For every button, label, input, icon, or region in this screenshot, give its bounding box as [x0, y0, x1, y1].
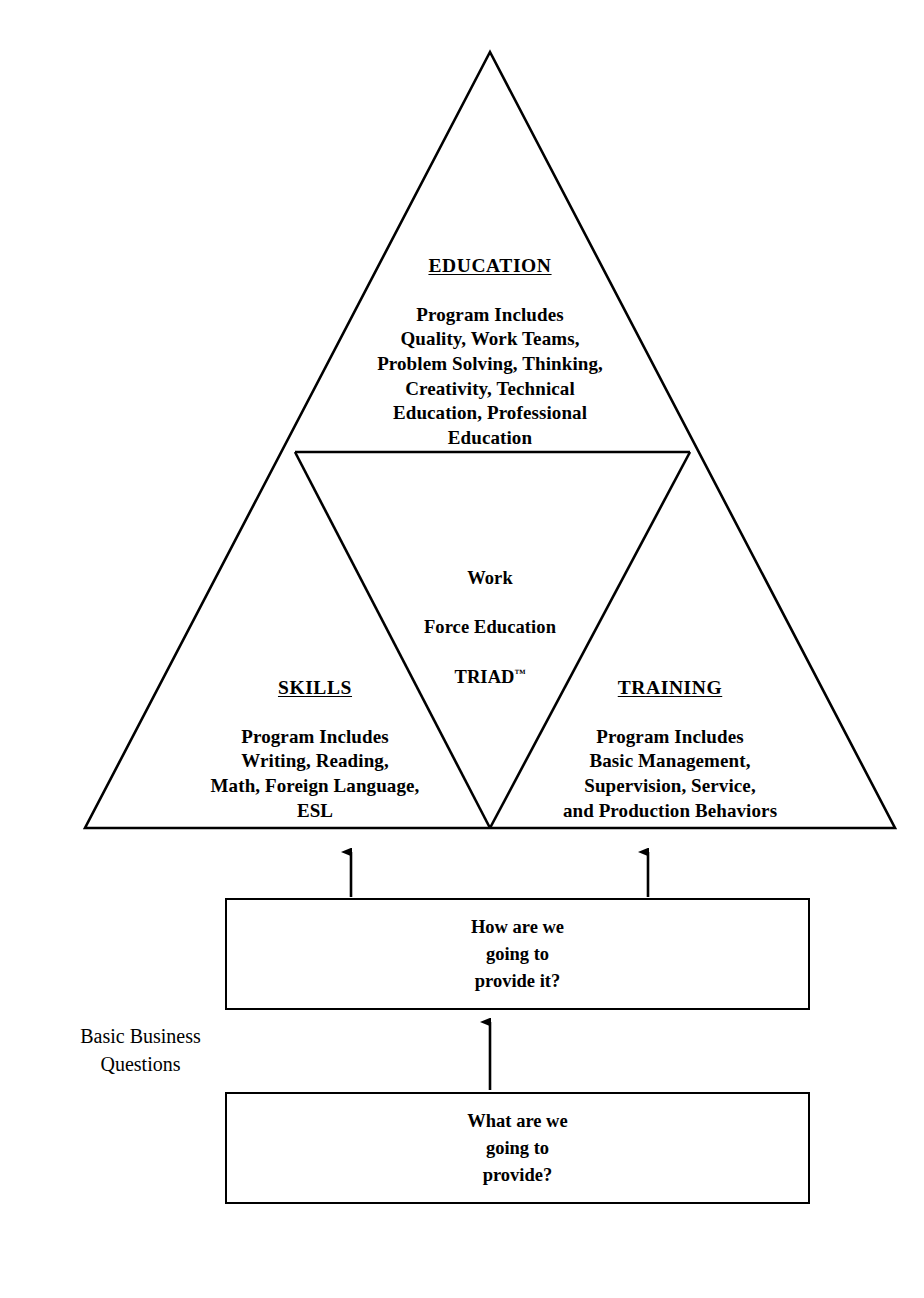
skills-body: Program Includes Writing, Reading, Math,…	[150, 725, 480, 824]
question-box-how-text: How are we going to provide it?	[471, 914, 564, 995]
skills-heading: SKILLS	[150, 675, 480, 700]
pyramid-section-training: TRAINING Program Includes Basic Manageme…	[490, 650, 850, 848]
triad-line-1: Work	[467, 568, 513, 588]
pyramid-section-skills: SKILLS Program Includes Writing, Reading…	[150, 650, 480, 848]
triad-line-2: Force Education	[424, 617, 556, 637]
pyramid-section-education: EDUCATION Program Includes Quality, Work…	[290, 228, 690, 476]
question-box-what-text: What are we going to provide?	[467, 1108, 567, 1189]
basic-business-questions-label: Basic Business Questions	[28, 1022, 253, 1079]
training-body: Program Includes Basic Management, Super…	[490, 725, 850, 824]
education-body: Program Includes Quality, Work Teams, Pr…	[290, 303, 690, 451]
diagram-canvas: EDUCATION Program Includes Quality, Work…	[0, 0, 924, 1298]
education-heading: EDUCATION	[290, 253, 690, 278]
question-box-how: How are we going to provide it?	[225, 898, 810, 1010]
question-box-what: What are we going to provide?	[225, 1092, 810, 1204]
training-heading: TRAINING	[490, 675, 850, 700]
